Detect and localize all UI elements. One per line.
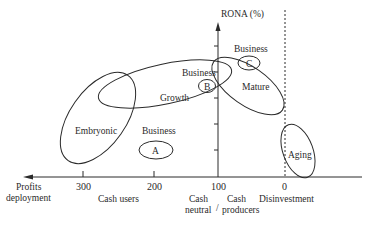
x-tick-300: 300	[76, 181, 91, 192]
embryonic-stage-ellipse	[45, 59, 151, 176]
y-axis-label: RONA (%)	[221, 9, 264, 20]
disinvestment-label: Disinvestment	[259, 194, 314, 204]
aging-label: Aging	[288, 150, 312, 160]
cash-separator: /	[216, 203, 219, 213]
business-c-letter: C	[246, 59, 252, 69]
business-a-letter: A	[152, 146, 159, 156]
cash-users-label: Cash users	[98, 194, 139, 204]
business-b-letter: B	[204, 82, 210, 92]
business-c-label: Business	[234, 44, 268, 54]
business-b-label: Business	[182, 68, 216, 78]
cash-neutral-line2: neutral	[185, 205, 212, 215]
growth-label: Growth	[160, 93, 189, 103]
x-tick-200: 200	[147, 181, 162, 192]
x-axis-arrow-icon	[23, 175, 33, 180]
mature-label: Mature	[242, 82, 269, 92]
cash-producers-line2: producers	[222, 205, 260, 215]
embryonic-label: Embryonic	[75, 126, 117, 136]
lifecycle-diagram: RONA (%) Business C Business B Growth Ma…	[0, 0, 372, 225]
profits-label-line1: Profits	[16, 182, 42, 192]
cash-producers-line1: Cash	[227, 194, 246, 204]
profits-label-line2: deployment	[6, 193, 51, 203]
y-axis-arrow-icon	[216, 22, 221, 31]
x-axis-ticks	[83, 171, 154, 177]
x-tick-100: 100	[211, 181, 226, 192]
cash-neutral-line1: Cash	[189, 194, 208, 204]
business-a-label: Business	[142, 126, 176, 136]
x-tick-0: 0	[282, 181, 287, 192]
